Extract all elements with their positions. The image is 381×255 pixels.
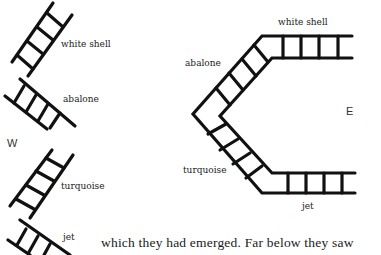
label-white-shell-right: white shell xyxy=(278,17,328,27)
direction-west: W xyxy=(7,137,17,149)
label-jet-right: jet xyxy=(302,201,314,211)
label-abalone-left: abalone xyxy=(63,94,99,104)
label-jet-left: jet xyxy=(63,232,75,242)
label-turquoise-right: turquoise xyxy=(183,165,227,175)
label-turquoise-left: turquoise xyxy=(61,181,105,191)
direction-east: E xyxy=(346,105,353,117)
label-white-shell-left: white shell xyxy=(61,39,111,49)
ladder-abalone-left xyxy=(5,79,75,129)
ladders-diagram xyxy=(0,0,381,255)
ladder-jet-left xyxy=(8,220,70,255)
body-text-line: which they had emerged. Far below they s… xyxy=(101,235,354,251)
label-abalone-right: abalone xyxy=(185,58,221,68)
